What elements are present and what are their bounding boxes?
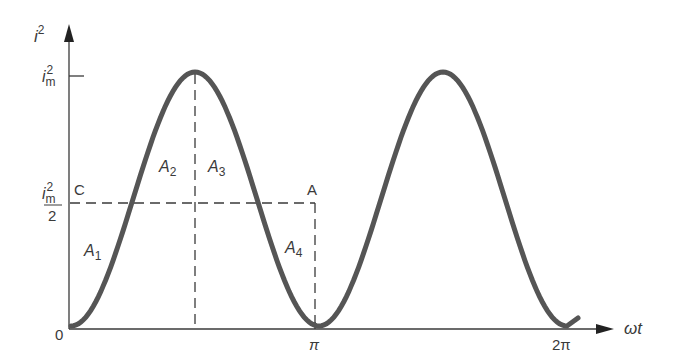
svg-text:2: 2 bbox=[48, 207, 56, 224]
x-axis-label: ωt bbox=[624, 319, 643, 338]
y-tick-label-max: im2 bbox=[42, 63, 56, 89]
y-tick-label-half: im2 2 bbox=[42, 180, 62, 224]
point-label-c: C bbox=[74, 181, 85, 198]
area-label-a2: A2 bbox=[158, 158, 177, 179]
area-label-a1: A1 bbox=[83, 242, 102, 263]
x-axis-arrow-icon bbox=[596, 324, 614, 334]
sine-squared-diagram: i2 im2 im2 2 C A A1 A2 A3 A4 0 π 2π ωt bbox=[0, 0, 679, 364]
y-axis-arrow-icon bbox=[64, 24, 74, 42]
svg-text:im2: im2 bbox=[42, 180, 56, 206]
point-label-a: A bbox=[307, 181, 317, 198]
x-tick-label-2pi: 2π bbox=[552, 336, 571, 353]
origin-label: 0 bbox=[55, 326, 63, 343]
area-label-a3: A3 bbox=[207, 158, 226, 179]
sine-squared-curve bbox=[71, 72, 578, 326]
x-tick-label-pi: π bbox=[309, 336, 320, 353]
y-axis-label: i2 bbox=[34, 23, 45, 46]
area-label-a4: A4 bbox=[284, 239, 303, 260]
